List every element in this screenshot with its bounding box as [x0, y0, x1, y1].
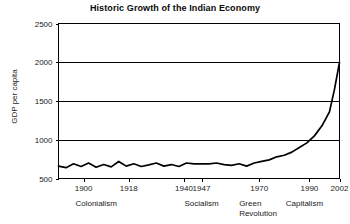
chart-figure: Historic Growth of the Indian Economy GD…	[0, 0, 350, 224]
gridlines	[59, 63, 340, 141]
x-tick-label-1947: 1947	[193, 184, 211, 193]
era-annotations: ColonialismSocialismGreenRevolutionCapit…	[75, 199, 323, 218]
era-label-revolution: Revolution	[239, 209, 277, 218]
x-tick-label-2002: 2002	[331, 184, 349, 193]
x-tick-label-1990: 1990	[300, 184, 318, 193]
y-tick-label-2000: 2000	[35, 58, 53, 67]
era-label-colonialism: Colonialism	[75, 199, 117, 208]
data-series-line	[59, 62, 340, 167]
y-tick-label-1500: 1500	[35, 97, 53, 106]
era-label-capitalism: Capitalism	[286, 199, 324, 208]
x-tick-label-1970: 1970	[250, 184, 268, 193]
x-axis-tick-labels: 1900191819401947197019902002	[75, 184, 349, 193]
x-tick-label-1918: 1918	[120, 184, 138, 193]
era-label-socialism: Socialism	[184, 199, 219, 208]
x-tick-label-1900: 1900	[75, 184, 93, 193]
era-label-green: Green	[239, 199, 261, 208]
x-tick-label-1940: 1940	[175, 184, 193, 193]
y-tick-label-2500: 2500	[35, 20, 53, 29]
y-tick-label-500: 500	[39, 175, 53, 184]
y-tick-label-1000: 1000	[35, 136, 53, 145]
y-axis-tick-labels: 5001000150020002500	[35, 20, 53, 184]
plot-canvas: 5001000150020002500 19001918194019471970…	[0, 0, 350, 224]
